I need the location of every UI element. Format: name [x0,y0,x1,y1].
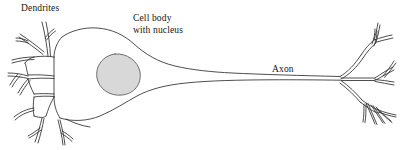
label-cell-body-line1: Cell body [133,13,172,23]
axon-terminal-arbor [340,23,396,125]
nucleus-shape [97,54,141,95]
dendrite-branch-lower [14,108,90,145]
neuron-illustration [0,0,419,150]
neuron-diagram: Dendrites Cell bodywith nucleus Axon [0,0,419,150]
label-axon: Axon [272,64,294,76]
dendrite-trunk [25,56,54,117]
label-cell-body-line2: with nucleus [133,25,183,37]
label-cell-body: Cell bodywith nucleus [133,13,183,36]
label-dendrites: Dendrites [21,3,59,15]
dendrite-branch-middle [8,73,30,95]
